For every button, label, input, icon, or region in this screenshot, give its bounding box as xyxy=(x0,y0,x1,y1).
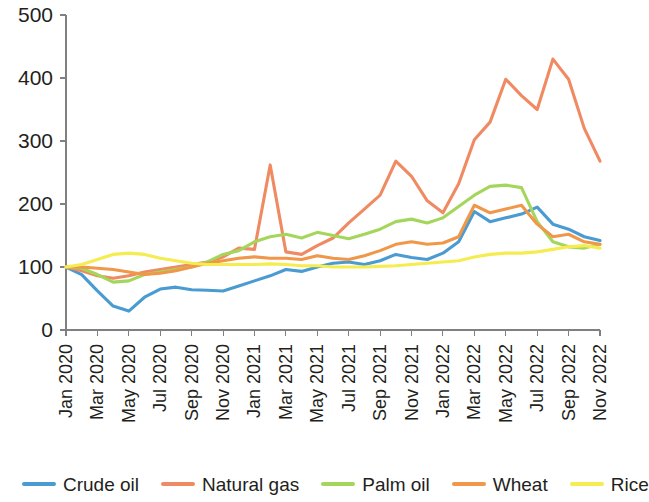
x-tick-label: May 2022 xyxy=(496,344,516,423)
legend-swatch-icon xyxy=(570,482,604,486)
y-tick-label: 200 xyxy=(18,192,53,215)
y-tick-label: 500 xyxy=(18,3,53,26)
x-tick-label: Nov 2022 xyxy=(590,344,608,421)
x-tick-label: Jan 2020 xyxy=(56,344,76,418)
legend-item-rice[interactable]: Rice xyxy=(570,475,649,494)
legend-label: Rice xyxy=(611,475,649,494)
x-tick-label: Jul 2021 xyxy=(339,344,359,412)
x-axis-ticks xyxy=(66,330,600,336)
legend-label: Crude oil xyxy=(63,475,139,494)
legend-label: Natural gas xyxy=(202,475,299,494)
chart-legend: Crude oilNatural gasPalm oilWheatRice xyxy=(0,466,608,502)
y-axis-labels: 0100200300400500 xyxy=(18,3,53,341)
x-tick-label: Nov 2021 xyxy=(402,344,422,421)
x-tick-label: Mar 2021 xyxy=(276,344,296,420)
plot-area: 0100200300400500 Jan 2020Mar 2020May 202… xyxy=(0,0,608,460)
y-tick-label: 400 xyxy=(18,66,53,89)
y-tick-label: 0 xyxy=(41,318,53,341)
x-tick-label: Nov 2020 xyxy=(213,344,233,421)
x-tick-label: May 2020 xyxy=(119,344,139,423)
x-tick-label: Jul 2020 xyxy=(150,344,170,412)
x-tick-label: Jan 2021 xyxy=(244,344,264,418)
legend-item-palm-oil[interactable]: Palm oil xyxy=(321,475,430,494)
legend-item-natural-gas[interactable]: Natural gas xyxy=(161,475,299,494)
y-tick-label: 300 xyxy=(18,129,53,152)
legend-swatch-icon xyxy=(321,482,355,486)
legend-label: Palm oil xyxy=(362,475,430,494)
x-tick-label: Mar 2020 xyxy=(87,344,107,420)
y-axis-ticks xyxy=(60,15,66,330)
legend-item-crude-oil[interactable]: Crude oil xyxy=(22,475,139,494)
x-tick-label: May 2021 xyxy=(307,344,327,423)
legend-swatch-icon xyxy=(161,482,195,486)
legend-swatch-icon xyxy=(452,482,486,486)
data-series-group xyxy=(66,59,600,311)
x-tick-label: Sep 2020 xyxy=(182,344,202,421)
x-tick-label: Jul 2022 xyxy=(527,344,547,412)
x-tick-label: Sep 2022 xyxy=(559,344,579,421)
x-tick-label: Jan 2022 xyxy=(433,344,453,418)
x-tick-label: Mar 2022 xyxy=(464,344,484,420)
legend-swatch-icon xyxy=(22,482,56,486)
series-line-natural-gas xyxy=(66,59,600,278)
x-axis-labels: Jan 2020Mar 2020May 2020Jul 2020Sep 2020… xyxy=(56,344,608,423)
legend-item-wheat[interactable]: Wheat xyxy=(452,475,548,494)
y-tick-label: 100 xyxy=(18,255,53,278)
x-tick-label: Sep 2021 xyxy=(370,344,390,421)
legend-label: Wheat xyxy=(493,475,548,494)
